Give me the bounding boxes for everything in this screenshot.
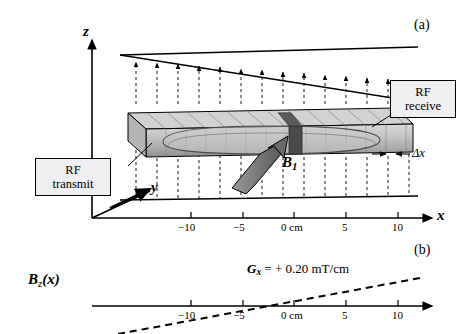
- panel-b-x-tick-label-2: 0 cm: [281, 310, 303, 321]
- slice-thickness-label: Δx: [412, 147, 425, 160]
- panel-b-y-label-main: B: [28, 271, 38, 287]
- panel-b-x-tick-label-0: −10: [178, 310, 195, 321]
- figure-root: z x y (a) (b) −10 −5 0 cm 5 10 B1 Δx RF …: [0, 0, 465, 334]
- b1-label-main: B: [282, 154, 292, 170]
- x-tick-label-0: −10: [178, 222, 195, 233]
- b1-label-sub: 1: [292, 160, 297, 172]
- panel-a-label: (a): [414, 18, 430, 32]
- gradient-symbol: G: [247, 261, 256, 276]
- panel-b-x-tick-label-1: −5: [233, 310, 245, 321]
- panel-b-y-label: Bz(x): [28, 272, 60, 288]
- selected-slice: [289, 126, 302, 154]
- panel-b-x-ticks: [191, 300, 398, 306]
- axis-y-arrow: [110, 189, 150, 208]
- axis-z-label: z: [83, 24, 89, 39]
- axis-y-label: y: [151, 180, 158, 195]
- axis-x-label: x: [437, 208, 445, 223]
- rf-transmit-callout: RF transmit: [35, 158, 111, 196]
- panel-b-x-tick-label-4: 10: [392, 310, 403, 321]
- x-tick-label-4: 10: [392, 222, 403, 233]
- axis-x-ticks: [191, 212, 398, 218]
- panel-b-x-tick-label-3: 5: [342, 310, 348, 321]
- x-tick-label-1: −5: [233, 222, 245, 233]
- panel-b-label: (b): [414, 243, 430, 257]
- x-tick-label-2: 0 cm: [281, 222, 303, 233]
- b1-label: B1: [282, 155, 297, 171]
- x-tick-label-3: 5: [342, 222, 348, 233]
- rf-receive-callout: RF receive: [390, 80, 456, 118]
- panel-b-y-label-arg: (x): [42, 271, 60, 287]
- rf-transmit-text: RF transmit: [53, 163, 94, 192]
- gradient-annotation: Gx = + 0.20 mT/cm: [247, 262, 349, 278]
- rf-receive-text: RF receive: [405, 85, 441, 114]
- gradient-value: = + 0.20 mT/cm: [261, 261, 349, 276]
- field-lines-upper: [136, 62, 409, 104]
